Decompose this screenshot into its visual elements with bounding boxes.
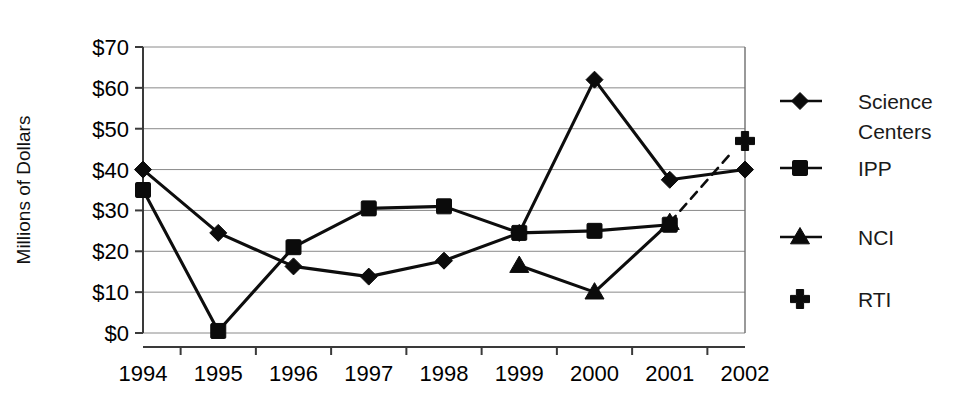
x-axis-tick-label: 1995 (194, 361, 243, 386)
rti-projection-dashed-line (670, 151, 733, 223)
data-point-ipp (587, 223, 602, 238)
series-markers (135, 71, 755, 338)
x-axis-tick-labels: 199419951996199719981999200020012002 (119, 361, 770, 386)
gridlines (143, 47, 745, 333)
x-axis-tick-label: 1996 (269, 361, 318, 386)
legend: ScienceCentersIPPNCIRTI (780, 90, 933, 311)
legend-label-science-centers[interactable]: Science (858, 90, 933, 113)
legend-marker-nci (791, 228, 810, 244)
y-axis-tick-label: $20 (92, 239, 129, 264)
x-axis-tick-label: 2000 (570, 361, 619, 386)
data-point-nci (510, 256, 529, 272)
legend-label-rti[interactable]: RTI (858, 288, 891, 311)
data-point-rti (736, 131, 755, 150)
data-point-science-centers (436, 252, 453, 269)
series-line-ipp (143, 190, 670, 331)
x-axis-tick-label: 1999 (495, 361, 544, 386)
x-axis-tick-label: 2001 (645, 361, 694, 386)
x-axis (143, 347, 745, 355)
legend-label-science-centers[interactable]: Centers (858, 120, 932, 143)
y-axis-tick-label: $60 (92, 76, 129, 101)
y-axis-title: Millions of Dollars (13, 116, 34, 265)
x-axis-tick-label: 1994 (119, 361, 168, 386)
data-point-ipp (286, 240, 301, 255)
y-axis-tick-label: $40 (92, 158, 129, 183)
y-axis-tick-label: $0 (105, 321, 129, 346)
legend-label-ipp[interactable]: IPP (858, 157, 892, 180)
dashed-connector-annotation (670, 151, 733, 223)
x-axis-tick-label: 2002 (721, 361, 770, 386)
y-axis-tick-label: $50 (92, 117, 129, 142)
x-axis-tick-label: 1997 (344, 361, 393, 386)
line-chart: $0$10$20$30$40$50$60$70 1994199519961997… (0, 0, 968, 393)
data-point-ipp (512, 225, 527, 240)
series-line-science-centers (143, 80, 745, 277)
y-axis-tick-label: $30 (92, 198, 129, 223)
chart-container: $0$10$20$30$40$50$60$70 1994199519961997… (0, 0, 968, 393)
legend-marker-ipp (793, 161, 808, 176)
legend-marker-science-centers (792, 93, 809, 110)
data-point-science-centers (360, 268, 377, 285)
legend-marker-rti (791, 290, 810, 309)
y-axis-tick-label: $70 (92, 35, 129, 60)
data-point-ipp (361, 201, 376, 216)
data-point-ipp (136, 183, 151, 198)
data-point-science-centers (737, 161, 754, 178)
data-point-science-centers (285, 258, 302, 275)
legend-label-nci[interactable]: NCI (858, 226, 894, 249)
x-axis-tick-label: 1998 (420, 361, 469, 386)
data-point-ipp (211, 323, 226, 338)
y-axis-tick-label: $10 (92, 280, 129, 305)
data-point-ipp (437, 199, 452, 214)
